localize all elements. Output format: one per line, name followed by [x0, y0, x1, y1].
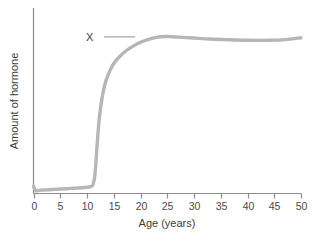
series-group [34, 37, 302, 191]
x-axis-tick-label: 0 [32, 200, 38, 212]
x-axis-tick-label: 50 [296, 200, 308, 212]
x-axis-title: Age (years) [139, 217, 196, 229]
x-axis-tick-label: 20 [136, 200, 148, 212]
annotation-label-x: X [86, 31, 94, 43]
hormone-vs-age-chart: 05101520253035404550 X Age (years) Amoun… [0, 0, 317, 233]
x-axis-tick-label: 40 [243, 200, 255, 212]
hormone-curve [34, 37, 302, 191]
x-axis-tick-label: 15 [109, 200, 121, 212]
y-axis-title: Amount of hormone [8, 53, 20, 150]
chart-canvas: 05101520253035404550 X Age (years) Amoun… [0, 0, 317, 233]
x-axis-tick-label: 45 [269, 200, 281, 212]
x-axis-tick-labels: 05101520253035404550 [32, 200, 308, 212]
x-axis-tick-marks [35, 194, 302, 199]
x-axis-tick-label: 30 [189, 200, 201, 212]
x-axis-tick-label: 5 [58, 200, 64, 212]
x-axis-tick-label: 10 [82, 200, 94, 212]
x-axis-tick-label: 35 [216, 200, 228, 212]
annotation-group: X [86, 31, 135, 43]
x-axis-tick-label: 25 [162, 200, 174, 212]
